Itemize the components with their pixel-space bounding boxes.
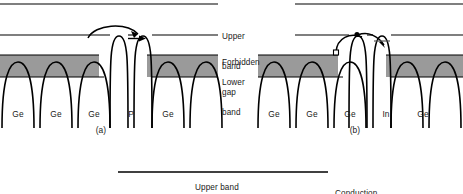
panel-a-caption: (a) bbox=[86, 126, 116, 136]
atom-label-b-2: Ge bbox=[335, 110, 365, 120]
atom-label-a-0: Ge bbox=[3, 110, 33, 120]
potential-well-curve-a bbox=[2, 36, 222, 128]
atom-label-a-4: Ge bbox=[153, 110, 183, 120]
energy-band-figure: Upper band Forbidden gap Lower band Ge G… bbox=[0, 0, 463, 194]
hole-square-b bbox=[334, 50, 339, 55]
lower-band-label-line1: Lower bbox=[222, 78, 245, 88]
lower-band-fill-a bbox=[0, 55, 218, 77]
hole-transition-arrow-b bbox=[336, 34, 385, 52]
panel-b-caption: (b) bbox=[340, 126, 370, 136]
bottom-upper-band-label: Upper band bbox=[195, 183, 239, 193]
atom-label-a-2: Ge bbox=[79, 110, 109, 120]
atom-label-b-0: Ge bbox=[259, 110, 289, 120]
atom-label-b-1: Ge bbox=[297, 110, 327, 120]
atom-label-b-4: Ge bbox=[408, 110, 438, 120]
electron-transition-arrow-a bbox=[88, 26, 138, 38]
panel-a bbox=[0, 4, 222, 128]
atom-label-a-3: P bbox=[116, 110, 146, 120]
atom-label-a-1: Ge bbox=[41, 110, 71, 120]
lower-band-label-line2: band bbox=[222, 108, 245, 118]
lower-band-label: Lower band bbox=[222, 58, 245, 138]
atom-label-b-3: In bbox=[371, 110, 401, 120]
bottom-conduction-label: Conduction bbox=[335, 189, 377, 194]
electron-dot-b bbox=[354, 32, 359, 37]
